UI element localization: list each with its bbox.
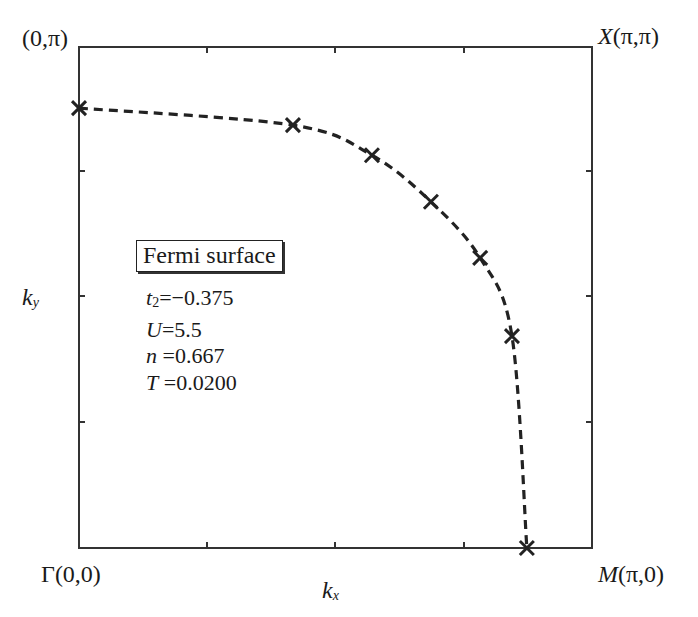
x-marker-icon [473,251,487,265]
param-n: n =0.667 [146,343,237,370]
y-axis-label-main: k [22,284,33,310]
param-t2: t2=−0.375 [146,285,237,317]
parameter-list: t2=−0.375 U=5.5 n =0.667 T =0.0200 [146,285,237,396]
x-ticks [207,47,464,548]
x-point-coords: (π,π) [613,23,659,49]
fermi-surface-plot [0,0,698,617]
param-value: =5.5 [162,317,202,342]
x-axis-label-sub: x [333,588,339,603]
param-symbol: U [146,317,162,342]
x-point-symbol: X [598,23,613,49]
y-axis-label: ky [22,285,39,310]
legend-title: Fermi surface [136,240,283,272]
y-axis-label-sub: y [33,295,39,310]
param-symbol: T [146,370,158,395]
x-marker-icon [424,195,438,209]
param-value: =0.0200 [158,370,236,395]
param-u: U=5.5 [146,317,237,344]
corner-label-bottom-right: M(π,0) [598,562,664,586]
x-marker-icon [365,148,379,162]
m-point-symbol: M [598,561,618,587]
param-value: =−0.375 [159,285,233,310]
corner-label-top-left: (0,π) [22,26,68,50]
x-axis-label-main: k [322,577,333,603]
x-axis-label: kx [322,578,339,603]
x-marker-icon [286,118,300,132]
fermi-surface-markers [72,101,534,555]
param-value: =0.667 [157,343,224,368]
param-t: T =0.0200 [146,370,237,397]
corner-label-top-right: X(π,π) [598,24,659,48]
corner-label-bottom-left: Γ(0,0) [41,562,101,586]
param-symbol: n [146,343,157,368]
m-point-coords: (π,0) [618,561,664,587]
